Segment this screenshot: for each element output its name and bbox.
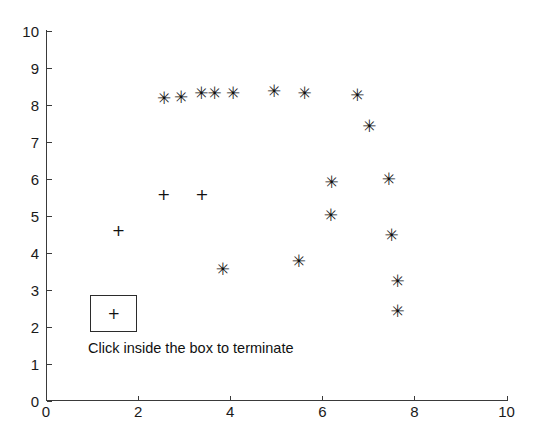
y-tick-label: 1 <box>5 357 39 372</box>
star-marker: ✳ <box>174 91 187 104</box>
y-tick-label: 3 <box>5 283 39 298</box>
y-tick-label: 6 <box>5 172 39 187</box>
plus-marker: + <box>157 188 170 201</box>
star-marker: ✳ <box>390 275 403 288</box>
star-marker: ✳ <box>382 173 395 186</box>
x-tick-mark <box>322 396 323 401</box>
plus-marker: + <box>112 224 125 237</box>
star-marker: ✳ <box>362 120 375 133</box>
x-tick-mark <box>414 396 415 401</box>
y-tick-label: 8 <box>5 98 39 113</box>
star-marker: ✳ <box>324 209 337 222</box>
star-marker: ✳ <box>325 176 338 189</box>
y-tick-label: 10 <box>5 24 39 39</box>
terminate-instruction-text: Click inside the box to terminate <box>88 340 294 357</box>
x-tick-label: 2 <box>118 404 158 419</box>
plus-marker: + <box>195 188 208 201</box>
terminate-box[interactable]: + <box>90 295 137 332</box>
star-marker: ✳ <box>267 85 280 98</box>
y-tick-mark <box>47 364 52 365</box>
star-marker: ✳ <box>208 87 221 100</box>
star-marker: ✳ <box>390 305 403 318</box>
x-tick-mark <box>230 396 231 401</box>
x-tick-mark <box>507 396 508 401</box>
y-tick-label: 4 <box>5 246 39 261</box>
y-tick-mark <box>47 142 52 143</box>
y-tick-label: 9 <box>5 61 39 76</box>
y-tick-mark <box>47 31 52 32</box>
y-tick-mark <box>47 401 52 402</box>
y-tick-label: 2 <box>5 320 39 335</box>
y-tick-label: 5 <box>5 209 39 224</box>
figure-window[interactable]: 012345678910 0246810 ✳✳✳✳✳✳✳✳✳✳✳✳✳✳✳✳✳++… <box>0 0 539 436</box>
y-tick-mark <box>47 253 52 254</box>
y-tick-label: 7 <box>5 135 39 150</box>
x-tick-label: 8 <box>394 404 434 419</box>
star-marker: ✳ <box>384 229 397 242</box>
y-tick-mark <box>47 105 52 106</box>
x-tick-label: 6 <box>302 404 342 419</box>
plus-marker-icon: + <box>107 307 120 320</box>
star-marker: ✳ <box>226 87 239 100</box>
star-marker: ✳ <box>216 263 229 276</box>
x-tick-label: 0 <box>26 404 66 419</box>
x-tick-mark <box>138 396 139 401</box>
y-tick-mark <box>47 290 52 291</box>
y-tick-mark <box>47 216 52 217</box>
star-marker: ✳ <box>194 87 207 100</box>
plot-axes-area[interactable]: 012345678910 0246810 ✳✳✳✳✳✳✳✳✳✳✳✳✳✳✳✳✳++… <box>0 0 539 436</box>
y-tick-mark <box>47 179 52 180</box>
star-marker: ✳ <box>297 87 310 100</box>
y-tick-mark <box>47 68 52 69</box>
star-marker: ✳ <box>350 89 363 102</box>
star-marker: ✳ <box>292 255 305 268</box>
x-tick-label: 4 <box>210 404 250 419</box>
x-tick-label: 10 <box>487 404 527 419</box>
star-marker: ✳ <box>157 92 170 105</box>
x-tick-mark <box>46 396 47 401</box>
x-axis-line <box>46 400 507 401</box>
y-tick-mark <box>47 327 52 328</box>
